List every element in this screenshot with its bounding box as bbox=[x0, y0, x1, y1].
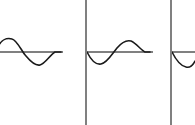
sine-wave-figure bbox=[0, 0, 195, 125]
figure-background bbox=[0, 0, 195, 125]
figure-svg bbox=[0, 0, 195, 125]
